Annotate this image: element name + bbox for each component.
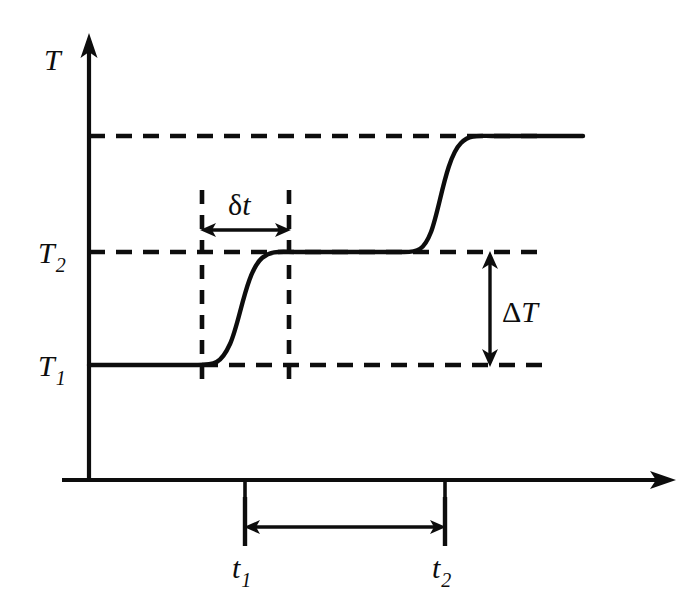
- level-label-t2-base: T: [38, 236, 57, 269]
- delta-T-symbol: Δ: [502, 295, 521, 328]
- delta-T-label: ΔT: [502, 295, 540, 328]
- time-label-t1-subscript: 1: [241, 569, 251, 591]
- delta-T-annotation: ΔT: [482, 251, 540, 367]
- time-markers-group: [244, 482, 446, 546]
- time-label-t2-base: t: [432, 551, 441, 584]
- figure-container: δt ΔT T T2: [0, 0, 679, 610]
- level-label-t2-subscript: 2: [56, 254, 66, 276]
- time-label-t1: t1: [232, 551, 251, 591]
- delta-t-symbol: δ: [228, 188, 242, 221]
- level-label-t2: T2: [38, 236, 66, 276]
- temperature-step-diagram: δt ΔT T T2: [0, 0, 679, 610]
- time-label-t2-subscript: 2: [441, 569, 451, 591]
- level-label-t1-subscript: 1: [56, 367, 66, 389]
- time-label-t1-base: t: [232, 551, 241, 584]
- level-label-t1: T1: [38, 349, 66, 389]
- delta-t-label: δt: [228, 188, 251, 221]
- time-label-t2: t2: [432, 551, 451, 591]
- delta-T-variable: T: [521, 295, 540, 328]
- y-axis-label: T: [44, 43, 63, 76]
- delta-t-annotation: δt: [200, 188, 291, 237]
- axes-group: [62, 33, 676, 489]
- delta-t-variable: t: [242, 188, 251, 221]
- level-label-t1-base: T: [38, 349, 57, 382]
